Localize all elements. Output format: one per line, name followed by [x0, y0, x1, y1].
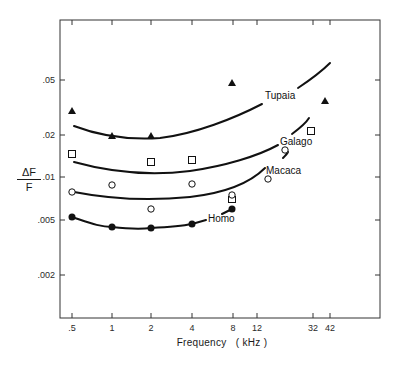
- x-tick-label: 32: [308, 323, 318, 333]
- homo-fit-curve: [72, 217, 206, 229]
- open-circle-marker: [69, 189, 75, 195]
- galago-fit-curve: [74, 145, 278, 173]
- x-tick-label: 42: [325, 323, 335, 333]
- x-tick-labels: .5 1 2 4 8 12 32 42: [68, 323, 335, 333]
- tupaia-label: Tupaia: [265, 90, 296, 101]
- filled-circle-marker: [229, 206, 236, 213]
- triangle-marker: [228, 79, 236, 86]
- triangle-marker: [68, 107, 76, 114]
- y-axis-title-numerator: ΔF: [17, 166, 41, 180]
- y-axis-title-denominator: F: [17, 180, 41, 193]
- homo-label: Homo: [208, 213, 235, 224]
- galago-fit-curve-end: [292, 118, 309, 134]
- x-tick-label: 8: [230, 323, 235, 333]
- tupaia-fit-curve: [74, 104, 262, 139]
- filled-circle-marker: [69, 214, 76, 221]
- y-tick-label: .005: [37, 215, 55, 225]
- macaca-markers: [69, 147, 288, 212]
- x-tick-label: .5: [68, 323, 76, 333]
- open-circle-marker: [148, 206, 154, 212]
- square-marker: [308, 128, 315, 135]
- open-circle-marker: [189, 181, 195, 187]
- open-circle-marker: [109, 182, 115, 188]
- x-axis-title: Frequency ( kHz ): [177, 337, 268, 348]
- triangle-marker: [147, 132, 155, 139]
- square-marker: [148, 159, 155, 166]
- y-tick-label: .05: [42, 75, 55, 85]
- galago-label: Galago: [280, 136, 313, 147]
- y-axis-ticks: [60, 80, 380, 275]
- y-axis-title: ΔF F: [17, 166, 41, 193]
- triangle-marker: [321, 97, 329, 104]
- y-tick-label: .02: [42, 130, 55, 140]
- filled-circle-marker: [109, 224, 116, 231]
- filled-circle-marker: [148, 225, 155, 232]
- open-circle-marker: [229, 192, 235, 198]
- x-tick-label: 12: [252, 323, 262, 333]
- x-tick-label: 1: [109, 323, 114, 333]
- square-marker: [69, 151, 76, 158]
- filled-circle-marker: [189, 221, 196, 228]
- chart-canvas: .5 1 2 4 8 12 32 42 .05 .02 .01 .005 .00…: [0, 0, 397, 366]
- square-marker: [189, 157, 196, 164]
- x-tick-label: 2: [148, 323, 153, 333]
- x-tick-label: 4: [189, 323, 194, 333]
- tupaia-fit-curve-end: [298, 63, 330, 88]
- macaca-label: Macaca: [266, 165, 301, 176]
- open-circle-marker: [265, 176, 271, 182]
- open-circle-marker: [282, 147, 288, 153]
- y-tick-label: .01: [42, 172, 55, 182]
- y-tick-label: .002: [37, 270, 55, 280]
